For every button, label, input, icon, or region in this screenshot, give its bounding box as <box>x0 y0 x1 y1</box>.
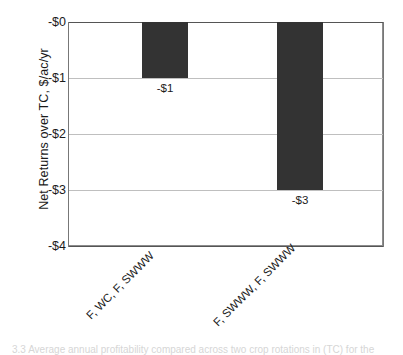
gridline-minus-3 <box>68 190 383 191</box>
x-tick-label-f-swww-f-swww: F, SWWW, F, SWWW <box>211 242 298 329</box>
y-tick-label-minus-4: -$4 <box>26 239 66 253</box>
y-tick-label-minus-2: -$2 <box>26 127 66 141</box>
gridline-minus-2 <box>68 134 383 135</box>
bar-f-swww-f-swww[interactable] <box>277 22 323 190</box>
bar-f-wc-f-swww[interactable] <box>142 22 188 78</box>
x-tick-label-f-wc-f-swww: F, WC, F, SWWW <box>84 249 156 321</box>
y-tick-label-minus-3: -$3 <box>26 183 66 197</box>
figure-caption: 3.3 Average annual profitability compare… <box>12 344 402 355</box>
bar-chart: Net Returns over TC, $/ac/yr -$0 -$1 -$2… <box>0 0 403 355</box>
axis-line-top <box>68 22 383 23</box>
axis-line-bottom <box>68 246 383 247</box>
y-tick-label-0: -$0 <box>26 15 66 29</box>
bar-value-label-1: -$1 <box>140 82 190 94</box>
axis-line-left <box>68 22 69 247</box>
bar-value-label-2: -$3 <box>275 194 325 206</box>
gridline-minus-1 <box>68 78 383 79</box>
axis-line-right <box>383 22 384 247</box>
y-tick-label-minus-1: -$1 <box>26 71 66 85</box>
